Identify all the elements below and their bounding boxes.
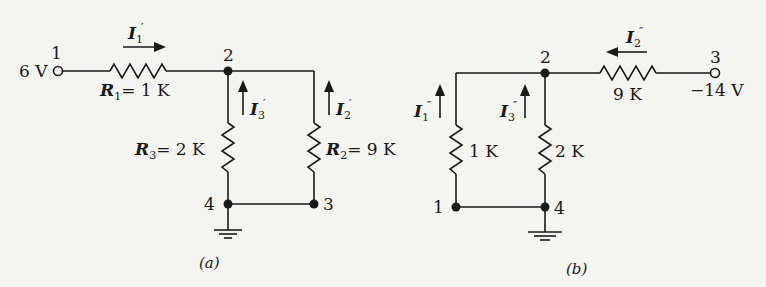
current-i2b-label: I2″ [626,26,643,49]
node-b1-label: 1 [433,199,444,216]
node-a3-label: 3 [323,196,334,213]
r3-label: R3= 2 K [135,141,205,161]
node-dot-b4-icon [541,203,550,212]
caption-a: (a) [199,256,220,271]
r-1k-label: 1 K [469,143,498,160]
resistor-2k-icon [539,125,551,174]
terminal-6v-icon [54,67,63,76]
node-b3-label: 3 [710,49,721,66]
current-i2a-label: I2′ [336,98,351,121]
node-b4-label: 4 [554,200,565,217]
node-a4-label: 4 [204,196,215,213]
r-9k-label: 9 K [613,86,642,103]
current-i3b-label: I3″ [500,100,517,123]
caption-b: (b) [566,262,587,277]
current-i3a-label: I3′ [250,98,265,121]
node-a1-label: 1 [51,45,62,62]
node-b2-label: 2 [540,49,551,66]
resistor-1k-icon [450,125,462,174]
node-dot-a4-icon [224,200,233,209]
source-voltage-b: −14 V [690,82,744,99]
node-a2-label: 2 [223,47,234,64]
source-voltage-a: 6 V [19,63,48,80]
node-dot-b2-icon [541,69,550,78]
node-dot-a2-icon [224,67,233,76]
r-2k-label: 2 K [555,143,584,160]
resistor-r2-icon [308,123,320,172]
r1-label: R1= 1 K [100,82,170,102]
current-i1b-label: I1″ [414,100,431,123]
r2-label: R2= 9 K [326,141,396,161]
terminal-neg14v-icon [711,69,720,78]
current-i1a-label: I1′ [128,22,143,45]
resistor-r1-icon [110,64,166,78]
node-dot-b1-icon [452,203,461,212]
resistor-r3-icon [222,123,234,172]
current-arrows [123,42,647,118]
resistor-9k-icon [600,66,656,80]
node-dot-a3-icon [310,200,319,209]
